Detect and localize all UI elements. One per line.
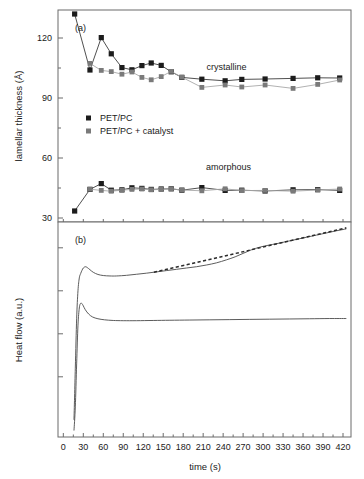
data-point-marker — [223, 186, 228, 191]
data-point-marker — [109, 189, 114, 194]
data-point-marker — [120, 72, 125, 77]
panel-b-x-tick-label-120: 120 — [136, 442, 151, 452]
panel-b-x-axis-title: time (s) — [189, 461, 221, 472]
data-point-marker — [88, 187, 93, 192]
panel-b-x-tick-label-90: 90 — [118, 442, 128, 452]
figure-container: 306090120 crystallineamorphous (a) lamel… — [0, 0, 364, 479]
data-point-marker — [109, 69, 114, 74]
data-point-marker — [199, 85, 204, 90]
data-point-marker — [159, 187, 164, 192]
panel-b: 0306090120150180210240270300330360390420… — [13, 222, 351, 472]
panel-b-x-tick-label-60: 60 — [98, 442, 108, 452]
data-point-marker — [99, 188, 104, 193]
panel-b-x-tick-label-330: 330 — [276, 442, 291, 452]
legend-label-pet-pc-catalyst: PET/PC + catalyst — [100, 126, 174, 136]
data-point-marker — [290, 76, 295, 81]
data-point-marker — [315, 188, 320, 193]
data-point-marker — [149, 187, 154, 192]
data-point-marker — [337, 187, 342, 192]
data-point-marker — [72, 11, 77, 16]
data-point-marker — [130, 70, 135, 75]
panel-b-y-axis-title: Heat flow (a.u.) — [13, 298, 24, 362]
panel-b-label: (b) — [75, 235, 86, 245]
data-point-marker — [88, 61, 93, 66]
panel-b-x-tick-label-150: 150 — [156, 442, 171, 452]
data-point-marker — [169, 69, 174, 74]
data-point-marker — [87, 67, 92, 72]
data-point-marker — [179, 188, 184, 193]
data-point-marker — [109, 51, 114, 56]
data-point-marker — [263, 188, 268, 193]
panel-b-x-tick-label-270: 270 — [236, 442, 251, 452]
data-point-marker — [119, 65, 124, 70]
panel-b-x-tick-label-360: 360 — [296, 442, 311, 452]
panel-b-frame — [58, 222, 351, 437]
data-point-marker — [199, 188, 204, 193]
annotation-crystalline: crystalline — [206, 62, 246, 72]
panel-a-label: (a) — [75, 23, 86, 33]
data-point-marker — [72, 208, 77, 213]
annotation-amorphous: amorphous — [206, 162, 252, 172]
legend-marker-pet-pc-catalyst — [86, 129, 91, 134]
legend-label-pet-pc: PET/PC — [100, 113, 133, 123]
data-point-marker — [149, 77, 154, 82]
data-point-marker — [140, 75, 145, 80]
data-point-marker — [120, 188, 125, 193]
y-tick-label-60: 60 — [42, 153, 52, 163]
data-point-marker — [239, 188, 244, 193]
data-point-marker — [99, 35, 104, 40]
data-point-marker — [99, 181, 104, 186]
panel-b-x-tick-label-0: 0 — [61, 442, 66, 452]
data-point-marker — [99, 68, 104, 73]
panel-b-x-tick-label-420: 420 — [335, 442, 350, 452]
y-tick-label-30: 30 — [42, 213, 52, 223]
scientific-figure: 306090120 crystallineamorphous (a) lamel… — [0, 0, 364, 479]
panel-a: 306090120 crystallineamorphous (a) lamel… — [13, 10, 351, 223]
data-point-marker — [337, 78, 342, 83]
data-point-marker — [169, 186, 174, 191]
panel-b-x-tick-label-390: 390 — [316, 442, 331, 452]
data-point-marker — [263, 83, 268, 88]
legend-marker-pet-pc — [86, 116, 91, 121]
data-point-marker — [179, 75, 184, 80]
data-point-marker — [159, 74, 164, 79]
panel-b-x-tick-labels: 0306090120150180210240270300330360390420 — [61, 442, 351, 452]
data-point-marker — [223, 83, 228, 88]
data-point-marker — [315, 82, 320, 87]
data-point-marker — [149, 60, 154, 65]
data-point-marker — [315, 75, 320, 80]
data-point-marker — [139, 63, 144, 68]
data-point-marker — [291, 189, 296, 194]
data-point-marker — [291, 86, 296, 91]
panel-b-x-tick-label-30: 30 — [78, 442, 88, 452]
panel-b-x-tick-label-180: 180 — [176, 442, 191, 452]
data-point-marker — [140, 187, 145, 192]
panel-b-x-tick-label-300: 300 — [256, 442, 271, 452]
data-point-marker — [159, 63, 164, 68]
panel-b-x-tick-label-210: 210 — [196, 442, 211, 452]
y-tick-label-120: 120 — [37, 33, 52, 43]
panel-a-y-axis-title: lamellar thickness (Å) — [13, 71, 24, 162]
panel-b-x-tick-label-240: 240 — [216, 442, 231, 452]
data-point-marker — [199, 77, 204, 82]
data-point-marker — [239, 85, 244, 90]
data-point-marker — [130, 187, 135, 192]
y-tick-label-90: 90 — [42, 93, 52, 103]
data-point-marker — [263, 76, 268, 81]
data-point-marker — [239, 77, 244, 82]
